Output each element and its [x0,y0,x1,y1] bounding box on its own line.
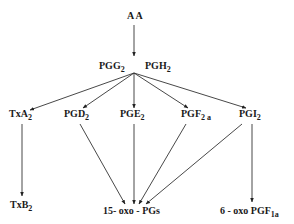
node-pgf2a-sub: 2 a [201,113,211,122]
node-pgf2a-label: PGF [181,108,201,119]
node-pgd2-label: PGD [64,108,85,119]
node-pgh2-label: PGH [145,60,167,71]
node-txb2-sub: 2 [28,204,32,213]
node-pge2-sub: 2 [141,113,145,122]
edge-pgi2-oxo15 [146,124,242,204]
node-pgi2-label: PGI [239,108,257,119]
node-pge2: PGE2 [120,108,145,120]
node-pgh2-sub: 2 [167,65,171,74]
node-pgi2-sub: 2 [257,113,261,122]
node-pgd2-sub: 2 [85,113,89,122]
node-txa2: TxA2 [9,108,32,120]
edge-pgh-pgd2 [83,73,134,108]
edge-pgd2-oxo15 [80,124,125,204]
node-pgi2: PGI2 [239,108,261,120]
node-aa: A A [127,10,143,22]
node-pgd2: PGD2 [64,108,89,120]
edge-pgh-pgi2 [134,73,246,108]
node-aa-label: A A [127,10,143,21]
edge-pgh-txa2 [30,73,134,110]
node-6-oxo-pgf1a-label: 6 - oxo PGF [220,205,271,216]
node-txb2-label: TxB [10,199,28,210]
edge-pgh-pgf2a [134,73,188,108]
node-txa2-label: TxA [9,108,28,119]
node-15-oxo-pgs-label: 15- oxo - PGs [103,205,160,216]
node-6-oxo-pgf1a-sub: 1a [271,210,279,219]
node-pgf2a: PGF2 a [181,108,211,120]
node-15-oxo-pgs: 15- oxo - PGs [103,205,160,217]
node-pge2-label: PGE [120,108,141,119]
node-pgg2: PGG2 [99,60,125,72]
node-pgh2: PGH2 [145,60,171,72]
node-txa2-sub: 2 [28,113,32,122]
node-pgg2-label: PGG [99,60,121,71]
node-6-oxo-pgf1a: 6 - oxo PGF1a [220,205,279,217]
node-txb2: TxB2 [10,199,32,211]
edge-pgf2a-oxo15 [139,124,186,204]
node-pgg2-sub: 2 [121,65,125,74]
